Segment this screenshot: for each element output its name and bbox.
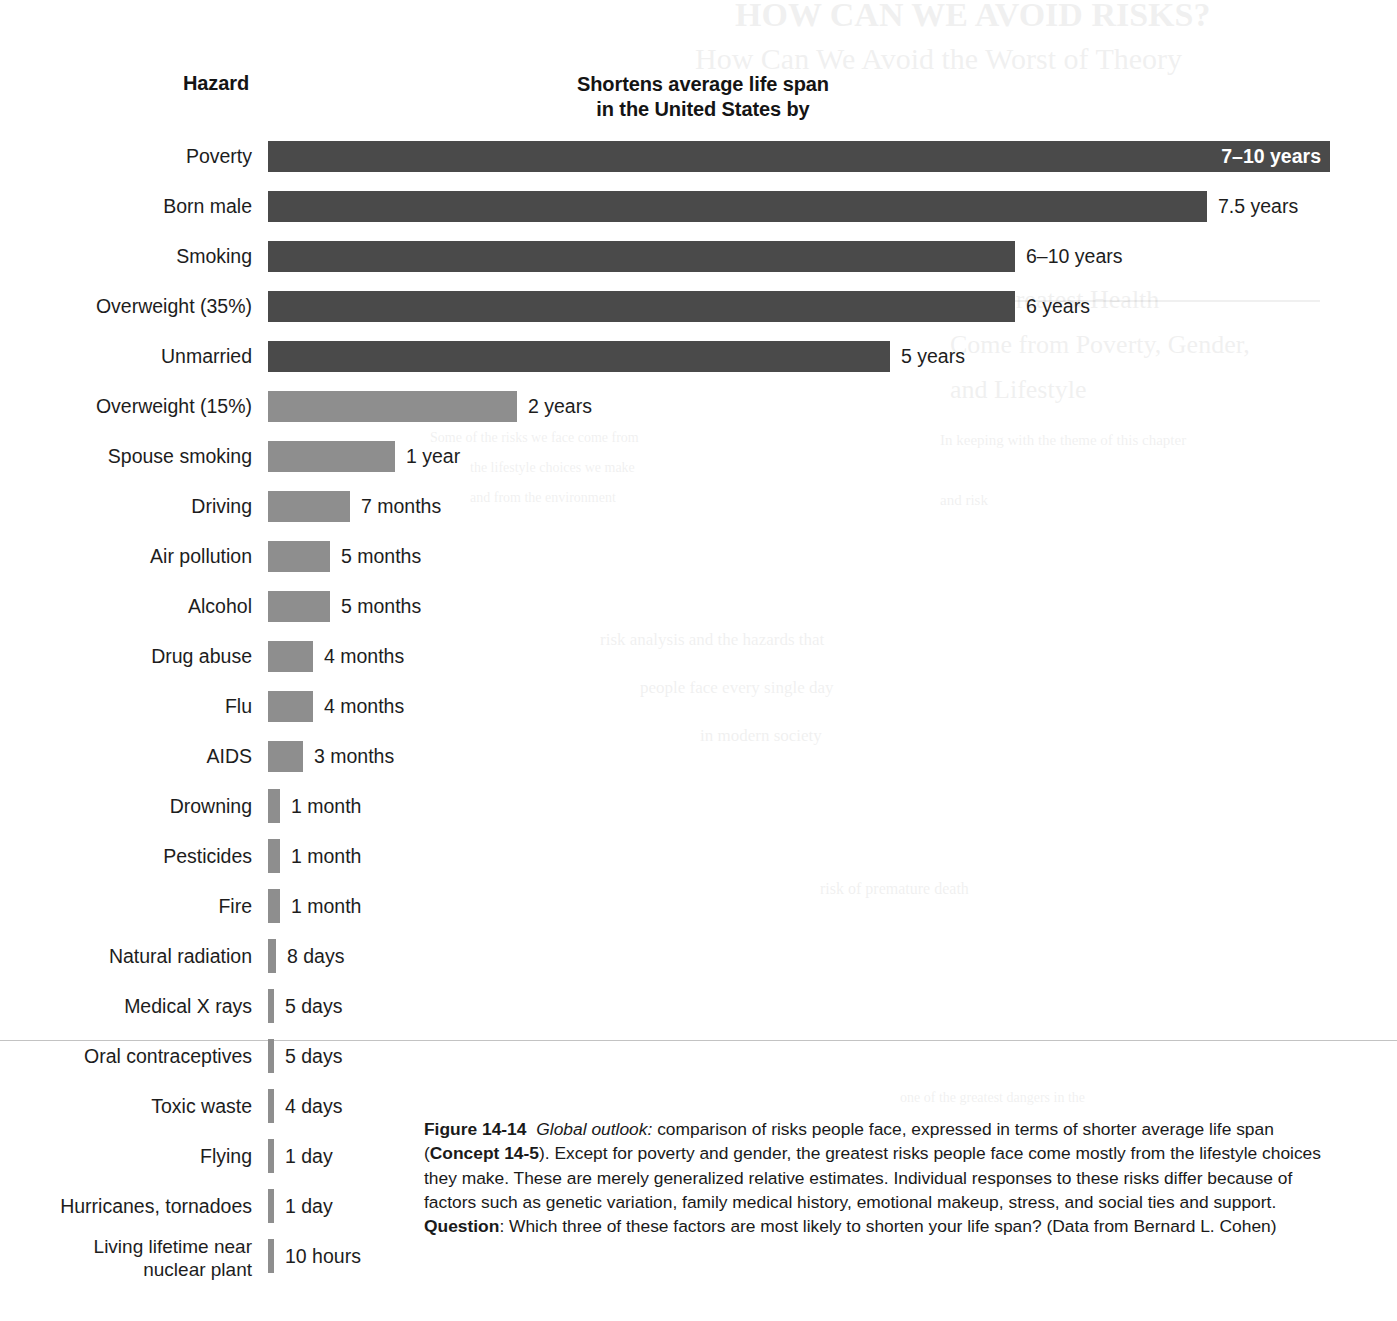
caption-figure-number: Figure 14-14 (424, 1119, 526, 1139)
bar-area: 7.5 years (268, 181, 1298, 231)
bar (268, 1139, 274, 1173)
bar-value-label: 4 months (324, 645, 404, 668)
bar (268, 641, 313, 672)
chart-row: Overweight (35%)6 years (0, 281, 1397, 331)
hazard-label: Poverty (0, 145, 268, 167)
bar (268, 1039, 274, 1073)
hazard-label: Pesticides (0, 845, 268, 867)
bar (268, 1189, 274, 1223)
bar-area: 3 months (268, 731, 394, 781)
chart-row: Born male7.5 years (0, 181, 1397, 231)
chart-row: Living lifetime near nuclear plant10 hou… (0, 1231, 1397, 1281)
chart-row: Flu4 months (0, 681, 1397, 731)
bar-value-label: 5 days (285, 995, 342, 1018)
hazard-label: Flying (0, 1145, 268, 1167)
bar-area: 6 years (268, 281, 1090, 331)
bar-value-label: 1 day (285, 1145, 333, 1168)
bar-area: 7 months (268, 481, 441, 531)
bar (268, 691, 313, 722)
bar-value-label: 2 years (528, 395, 592, 418)
hazard-label: Alcohol (0, 595, 268, 617)
bar (268, 391, 517, 422)
hazard-label: Natural radiation (0, 945, 268, 967)
hazard-label: Medical X rays (0, 995, 268, 1017)
caption-italic-lead: Global outlook: (536, 1119, 652, 1139)
hazard-label: Air pollution (0, 545, 268, 567)
bar-area: 5 months (268, 581, 421, 631)
bar-area: 7–10 years (268, 131, 1330, 181)
bar-area: 4 months (268, 631, 404, 681)
bar-area: 4 days (268, 1081, 342, 1131)
chart-row: AIDS3 months (0, 731, 1397, 781)
hazard-label: Toxic waste (0, 1095, 268, 1117)
chart-row: Oral contraceptives5 days (0, 1031, 1397, 1081)
bar-value-label: 7 months (361, 495, 441, 518)
bar-area: 1 year (268, 431, 460, 481)
bar-value-label: 6 years (1026, 295, 1090, 318)
bar-value-label: 8 days (287, 945, 344, 968)
hazard-label: Smoking (0, 245, 268, 267)
bar-area: 5 years (268, 331, 965, 381)
bar (268, 491, 350, 522)
bar (268, 839, 280, 873)
bar (268, 191, 1207, 222)
bar-area: 6–10 years (268, 231, 1122, 281)
hazard-label: Flu (0, 695, 268, 717)
bar-value-label: 3 months (314, 745, 394, 768)
figure-14-14: Hazard Shortens average life span in the… (0, 0, 1397, 1321)
chart-row: Smoking6–10 years (0, 231, 1397, 281)
bar (268, 441, 395, 472)
hazard-label: Drug abuse (0, 645, 268, 667)
chart-row: Overweight (15%)2 years (0, 381, 1397, 431)
bar-value-label: 6–10 years (1026, 245, 1122, 268)
hazard-label: Drowning (0, 795, 268, 817)
bar-value-label: 1 month (291, 895, 361, 918)
bar-value-label: 5 months (341, 595, 421, 618)
hazard-label: Overweight (15%) (0, 395, 268, 417)
hazard-label: Born male (0, 195, 268, 217)
hazard-label: AIDS (0, 745, 268, 767)
caption-text-2: ). Except for poverty and gender, the gr… (424, 1143, 1321, 1212)
bar (268, 1239, 274, 1273)
caption-concept-ref: Concept 14-5 (430, 1143, 539, 1163)
bar-value-label: 5 months (341, 545, 421, 568)
bar-area: 10 hours (268, 1231, 361, 1281)
hazard-label: Oral contraceptives (0, 1045, 268, 1067)
chart-row: Alcohol5 months (0, 581, 1397, 631)
bar (268, 291, 1015, 322)
bar-value-label: 1 month (291, 845, 361, 868)
caption-text-3: : Which three of these factors are most … (499, 1216, 1276, 1236)
bar-area: 8 days (268, 931, 344, 981)
hazard-label: Overweight (35%) (0, 295, 268, 317)
chart-row: Driving7 months (0, 481, 1397, 531)
bar-value-label: 7–10 years (1221, 145, 1330, 168)
caption-question-label: Question (424, 1216, 499, 1236)
bar-area: 4 months (268, 681, 404, 731)
value-column-header: Shortens average life span in the United… (468, 72, 938, 122)
bar-area: 1 month (268, 831, 361, 881)
bar-area: 5 days (268, 981, 342, 1031)
bar-value-label: 5 days (285, 1045, 342, 1068)
hazard-label: Living lifetime near nuclear plant (0, 1235, 268, 1281)
bar-value-label: 1 month (291, 795, 361, 818)
bar-area: 1 day (268, 1181, 333, 1231)
bar-area: 1 month (268, 881, 361, 931)
bar-value-label: 5 years (901, 345, 965, 368)
bar (268, 241, 1015, 272)
bar-value-label: 1 year (406, 445, 460, 468)
bar-value-label: 4 months (324, 695, 404, 718)
hazard-label: Fire (0, 895, 268, 917)
hazard-label: Driving (0, 495, 268, 517)
bar-area: 5 months (268, 531, 421, 581)
bar-value-label: 10 hours (285, 1245, 361, 1268)
figure-caption: Figure 14-14 Global outlook: comparison … (424, 1117, 1330, 1238)
bar (268, 541, 330, 572)
chart-row: Poverty7–10 years (0, 131, 1397, 181)
bar (268, 989, 274, 1023)
bar (268, 889, 280, 923)
bar (268, 1089, 274, 1123)
bar-area: 2 years (268, 381, 592, 431)
bar (268, 939, 276, 973)
bar: 7–10 years (268, 141, 1330, 172)
bar-area: 1 month (268, 781, 361, 831)
